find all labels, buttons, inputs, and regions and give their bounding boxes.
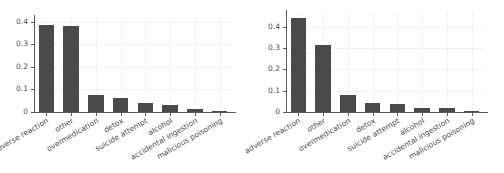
x-tick-right <box>373 113 374 116</box>
bar <box>162 105 177 112</box>
y-tick-label-right: 0.2 <box>268 65 280 73</box>
bar <box>113 98 128 112</box>
x-axis-line-left <box>34 112 236 113</box>
chart-panel-left: 00.10.20.30.4adverse reactionotheroverme… <box>0 0 252 173</box>
bar <box>138 103 153 112</box>
plot-area-right <box>286 12 484 112</box>
x-tick-left <box>96 113 97 116</box>
x-tick-left <box>71 113 72 116</box>
x-tick-right <box>397 113 398 116</box>
x-axis-line-right <box>286 112 488 113</box>
x-tick-right <box>348 113 349 116</box>
x-tick-left <box>46 113 47 116</box>
y-tick-label-left: 0.3 <box>16 40 28 48</box>
bar <box>315 45 330 112</box>
y-tick-label-right: 0 <box>275 108 280 116</box>
gridline-vertical-right <box>373 12 374 112</box>
gridline-vertical-right <box>447 12 448 112</box>
x-tick-left <box>220 113 221 116</box>
y-tick-label-left: 0.4 <box>16 18 28 26</box>
gridline-vertical-left <box>220 17 221 112</box>
x-tick-right <box>422 113 423 116</box>
x-tick-right <box>298 113 299 116</box>
bar <box>340 95 355 112</box>
y-tick-label-right: 0.4 <box>268 23 280 31</box>
gridline-horizontal-right <box>286 27 484 28</box>
plot-area-left <box>34 17 232 112</box>
gridline-vertical-left <box>170 17 171 112</box>
y-tick-label-left: 0 <box>23 108 28 116</box>
figure-two-bar-charts: 00.10.20.30.4adverse reactionotheroverme… <box>0 0 504 173</box>
x-tick-left <box>195 113 196 116</box>
gridline-vertical-right <box>472 12 473 112</box>
y-tick-label-right: 0.3 <box>268 44 280 52</box>
y-tick-label-left: 0.2 <box>16 63 28 71</box>
y-axis-line-left <box>34 15 35 113</box>
gridline-vertical-left <box>195 17 196 112</box>
y-axis-line-right <box>286 10 287 113</box>
x-tick-right <box>447 113 448 116</box>
x-tick-left <box>170 113 171 116</box>
y-tick-label-left: 0.1 <box>16 85 28 93</box>
gridline-horizontal-left <box>34 22 232 23</box>
bar <box>88 95 103 112</box>
x-tick-right <box>472 113 473 116</box>
bar <box>291 18 306 112</box>
chart-panel-right: 00.10.20.30.4adverse reactionotheroverme… <box>252 0 504 173</box>
gridline-vertical-right <box>397 12 398 112</box>
gridline-vertical-left <box>145 17 146 112</box>
gridline-vertical-right <box>422 12 423 112</box>
bar <box>39 25 54 112</box>
x-tick-left <box>145 113 146 116</box>
bar <box>365 103 380 112</box>
bar <box>63 26 78 112</box>
x-tick-left <box>121 113 122 116</box>
bar <box>390 104 405 113</box>
x-tick-right <box>323 113 324 116</box>
y-tick-label-right: 0.1 <box>268 87 280 95</box>
